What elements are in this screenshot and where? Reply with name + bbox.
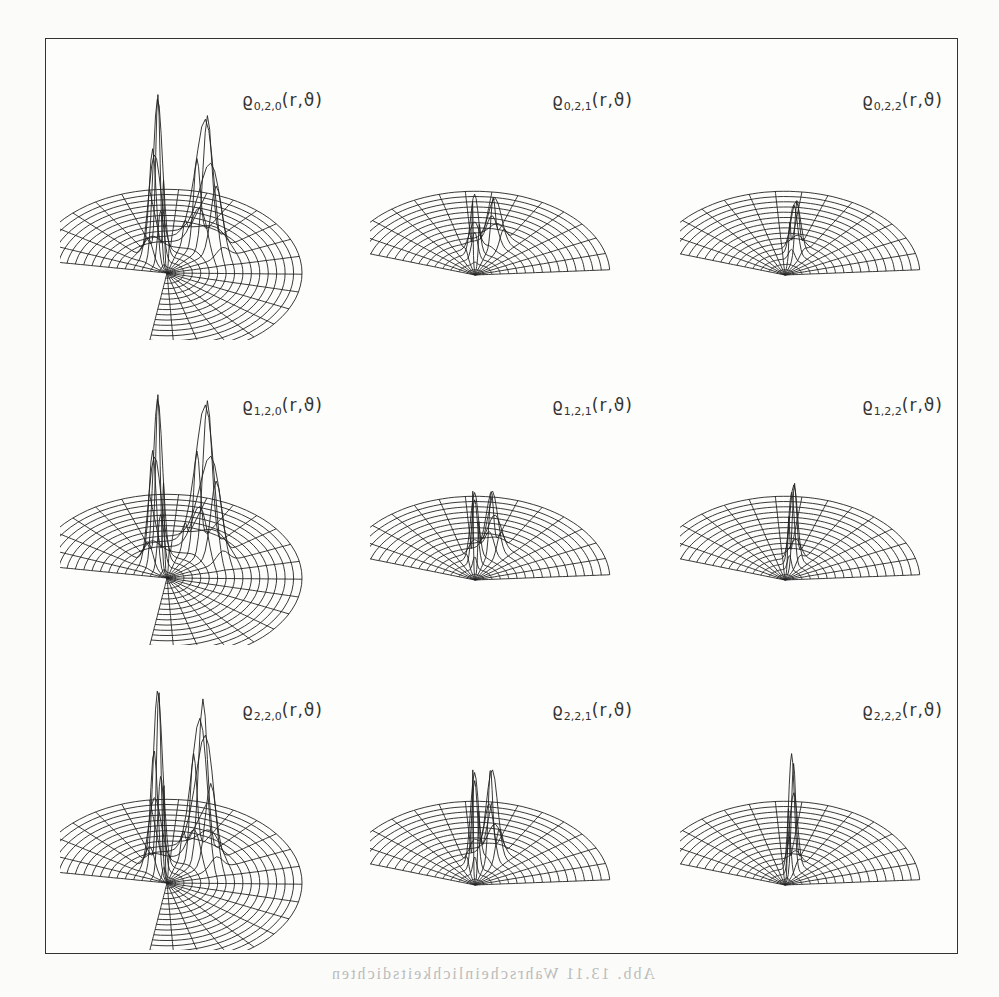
- panel-label: ϱ2,2,1(r,ϑ): [552, 700, 633, 723]
- mesh-lines: [60, 95, 302, 340]
- mesh-lines: [60, 691, 302, 950]
- wireframe-surface: [680, 345, 980, 645]
- quantum-indices: 0,2,1: [564, 100, 592, 113]
- panel-label: ϱ2,2,0(r,ϑ): [242, 700, 323, 723]
- rho-symbol: ϱ: [862, 395, 874, 415]
- surface-plot-2-2-1: [370, 650, 670, 950]
- function-args: (r,ϑ): [282, 700, 323, 720]
- wireframe-surface: [370, 345, 670, 645]
- surface-plot-2-2-0: [60, 650, 360, 950]
- wireframe-surface: [60, 650, 360, 950]
- panel-label: ϱ1,2,1(r,ϑ): [552, 395, 633, 418]
- mesh-lines: [680, 191, 920, 275]
- function-args: (r,ϑ): [902, 395, 943, 415]
- function-args: (r,ϑ): [902, 90, 943, 110]
- surface-plot-0-2-2: [680, 40, 980, 340]
- function-args: (r,ϑ): [902, 700, 943, 720]
- wireframe-surface: [680, 650, 980, 950]
- panel-label: ϱ0,2,1(r,ϑ): [552, 90, 633, 113]
- mesh-lines: [370, 191, 610, 275]
- surface-plot-1-2-0: [60, 345, 360, 645]
- wireframe-surface: [370, 40, 670, 340]
- mesh-lines: [680, 483, 920, 580]
- quantum-indices: 2,2,2: [874, 710, 902, 723]
- panel-label: ϱ1,2,0(r,ϑ): [242, 395, 323, 418]
- quantum-indices: 2,2,0: [254, 710, 282, 723]
- surface-plot-0-2-0: [60, 40, 360, 340]
- panel-label: ϱ1,2,2(r,ϑ): [862, 395, 943, 418]
- mesh-lines: [370, 491, 610, 580]
- bleed-through-text: Abb. 13.11 Wahrscheinlichkeitsdichten: [330, 965, 655, 983]
- rho-symbol: ϱ: [862, 700, 874, 720]
- mesh-lines: [370, 770, 610, 885]
- mesh-lines: [60, 395, 302, 645]
- wireframe-surface: [680, 40, 980, 340]
- rho-symbol: ϱ: [552, 395, 564, 415]
- function-args: (r,ϑ): [592, 395, 633, 415]
- wireframe-surface: [60, 345, 360, 645]
- rho-symbol: ϱ: [242, 700, 254, 720]
- quantum-indices: 1,2,2: [874, 405, 902, 418]
- rho-symbol: ϱ: [552, 90, 564, 110]
- rho-symbol: ϱ: [552, 700, 564, 720]
- quantum-indices: 2,2,1: [564, 710, 592, 723]
- surface-plot-0-2-1: [370, 40, 670, 340]
- surface-plot-1-2-1: [370, 345, 670, 645]
- function-args: (r,ϑ): [592, 90, 633, 110]
- rho-symbol: ϱ: [242, 90, 254, 110]
- surface-plot-2-2-2: [680, 650, 980, 950]
- mesh-lines: [680, 754, 920, 885]
- quantum-indices: 0,2,2: [874, 100, 902, 113]
- function-args: (r,ϑ): [592, 700, 633, 720]
- function-args: (r,ϑ): [282, 395, 323, 415]
- rho-symbol: ϱ: [862, 90, 874, 110]
- quantum-indices: 1,2,0: [254, 405, 282, 418]
- quantum-indices: 1,2,1: [564, 405, 592, 418]
- panel-label: ϱ0,2,0(r,ϑ): [242, 90, 323, 113]
- panel-label: ϱ0,2,2(r,ϑ): [862, 90, 943, 113]
- surface-plot-1-2-2: [680, 345, 980, 645]
- rho-symbol: ϱ: [242, 395, 254, 415]
- panel-label: ϱ2,2,2(r,ϑ): [862, 700, 943, 723]
- wireframe-surface: [60, 40, 360, 340]
- wireframe-surface: [370, 650, 670, 950]
- quantum-indices: 0,2,0: [254, 100, 282, 113]
- function-args: (r,ϑ): [282, 90, 323, 110]
